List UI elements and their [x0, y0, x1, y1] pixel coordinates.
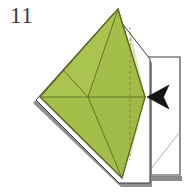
origami-step-figure: 11 — [0, 0, 194, 196]
origami-diagram — [0, 0, 194, 196]
right-panel-shadow — [149, 176, 182, 181]
step-number-label: 11 — [10, 4, 33, 27]
